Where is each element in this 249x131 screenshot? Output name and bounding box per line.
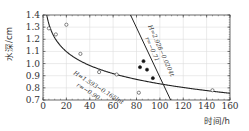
hollow-data-point	[98, 70, 101, 73]
hollow-data-point	[79, 52, 82, 55]
y-tick-label: 1.2	[26, 34, 40, 44]
hollow-data-point	[211, 89, 214, 92]
filled-data-point	[138, 66, 141, 69]
x-tick-label: 40	[84, 101, 96, 111]
y-tick-label: 0.9	[26, 71, 41, 81]
x-tick-label: 20	[61, 101, 73, 111]
filled-data-point	[145, 68, 148, 71]
y-tick-label: 1.0	[26, 59, 41, 69]
y-tick-label: 1.4	[26, 10, 41, 20]
data-points	[47, 23, 214, 94]
log-fit-curve	[44, 0, 230, 93]
filled-data-point	[151, 77, 154, 80]
y-tick-label: 1.3	[26, 22, 41, 32]
x-tick-label: 120	[175, 101, 192, 111]
hollow-data-point	[115, 73, 118, 76]
y-axis-title: 水深/cm	[4, 27, 14, 61]
y-tick-label: 1.1	[26, 46, 40, 56]
hollow-data-point	[137, 91, 140, 94]
x-tick-label: 100	[151, 101, 168, 111]
x-tick-labels: 020406080100120140160	[40, 101, 239, 111]
x-tick-label: 160	[221, 101, 238, 111]
chart: 020406080100120140160 0.70.80.91.01.11.2…	[0, 0, 249, 131]
hollow-data-point	[47, 27, 50, 30]
hollow-data-point	[54, 33, 57, 36]
y-tick-labels: 0.70.80.91.01.11.21.31.4	[26, 10, 41, 105]
hollow-data-point	[65, 23, 68, 26]
x-tick-label: 140	[198, 101, 215, 111]
filled-data-point	[142, 60, 145, 63]
y-tick-label: 0.8	[26, 83, 41, 93]
x-tick-label: 80	[131, 101, 143, 111]
x-axis-title: 时间/h	[204, 116, 230, 126]
x-tick-label: 0	[40, 101, 46, 111]
y-tick-label: 0.7	[26, 95, 41, 105]
